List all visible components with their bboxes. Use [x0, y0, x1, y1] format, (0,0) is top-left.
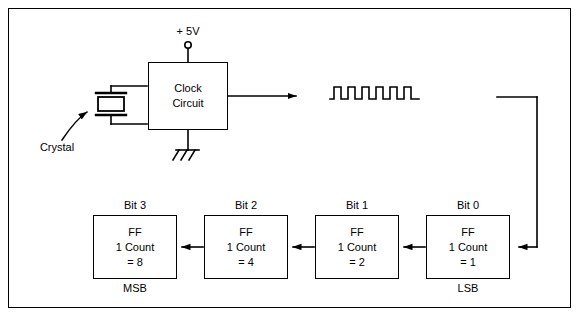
- bit2-title: Bit 2: [204, 199, 288, 212]
- circuit-diagram: + 5V Clock Circuit Crystal Bit 3 FF 1 Co…: [0, 0, 581, 318]
- bit2-line2: 1 Count: [205, 240, 287, 255]
- bit3-line1: FF: [94, 225, 176, 240]
- bit0-line2: 1 Count: [427, 240, 509, 255]
- power-label: + 5V: [164, 25, 212, 38]
- clock-circuit-label-line1: Clock: [149, 81, 227, 96]
- bit3-line3: = 8: [94, 255, 176, 270]
- clock-circuit-box: Clock Circuit: [148, 62, 228, 130]
- bit2-line1: FF: [205, 225, 287, 240]
- crystal-label: Crystal: [25, 141, 89, 154]
- bit3-title: Bit 3: [93, 199, 177, 212]
- flipflop-bit1: FF 1 Count = 2: [315, 215, 399, 279]
- bit1-line1: FF: [316, 225, 398, 240]
- bit2-line3: = 4: [205, 255, 287, 270]
- bit0-line1: FF: [427, 225, 509, 240]
- flipflop-bit3: FF 1 Count = 8: [93, 215, 177, 279]
- bit3-line2: 1 Count: [94, 240, 176, 255]
- bit0-line3: = 1: [427, 255, 509, 270]
- bit3-significance: MSB: [93, 282, 177, 295]
- bit1-line3: = 2: [316, 255, 398, 270]
- bit0-title: Bit 0: [426, 199, 510, 212]
- flipflop-bit2: FF 1 Count = 4: [204, 215, 288, 279]
- bit1-title: Bit 1: [315, 199, 399, 212]
- clock-circuit-label-line2: Circuit: [149, 96, 227, 111]
- flipflop-bit0: FF 1 Count = 1: [426, 215, 510, 279]
- bit0-significance: LSB: [426, 282, 510, 295]
- bit1-line2: 1 Count: [316, 240, 398, 255]
